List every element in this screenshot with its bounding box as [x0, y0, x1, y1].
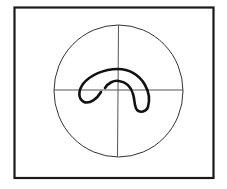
crosshair-vertical — [118, 25, 119, 157]
outer-frame — [15, 8, 214, 179]
diagram-canvas — [0, 0, 227, 189]
